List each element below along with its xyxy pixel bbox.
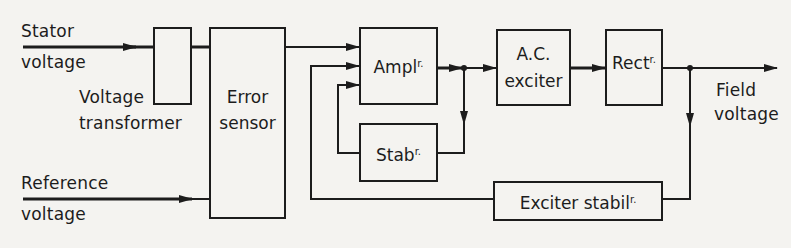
reference-label-line2: voltage (21, 204, 86, 224)
exciter-stabilizer-label: Exciter stabilr. (494, 190, 662, 213)
rectifier-label: Rectr. (606, 50, 662, 73)
ac-exciter-label-line1: A.C. (497, 44, 570, 64)
junction-dot (461, 65, 467, 71)
stator-label-line1: Stator (21, 21, 74, 41)
ac-exciter-box (497, 30, 570, 105)
voltage-transformer-label-line2: transformer (79, 113, 182, 133)
junction-dot (687, 65, 693, 71)
reference-label-line1: Reference (21, 173, 108, 193)
error-sensor-label-line1: Error (210, 87, 285, 107)
stator-label-line2: voltage (21, 52, 86, 72)
voltage-transformer-label-line1: Voltage (79, 87, 144, 107)
voltage-transformer-box (154, 28, 191, 104)
ac-exciter-label-line2: exciter (497, 71, 570, 91)
field-label-line1: Field (716, 80, 756, 100)
field-label-line2: voltage (714, 104, 779, 124)
stabilizer-label: Stabr. (360, 142, 437, 165)
excitation-control-block-diagram: Stator voltage Reference voltage Voltage… (0, 0, 791, 248)
error-sensor-label-line2: sensor (210, 113, 285, 133)
amplifier-label: Amplr. (360, 54, 437, 77)
